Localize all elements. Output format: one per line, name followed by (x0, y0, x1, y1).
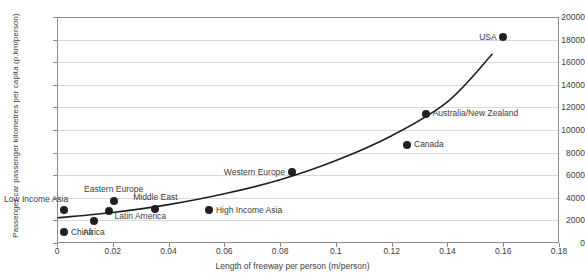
x-tick-mark (392, 243, 393, 247)
gridline (58, 130, 558, 131)
data-point-marker[interactable] (151, 205, 159, 213)
gridline (58, 153, 558, 154)
x-tick-mark (336, 243, 337, 247)
x-tick-mark (280, 243, 281, 247)
data-point-label: Middle East (133, 193, 177, 202)
data-point-label: Low Income Asia (4, 195, 68, 204)
data-point-marker[interactable] (403, 141, 411, 149)
data-point-label: Latin America (115, 212, 167, 221)
x-tick-label: 0.02 (93, 247, 133, 256)
data-point-marker[interactable] (90, 217, 98, 225)
gridline (58, 85, 558, 86)
data-point-label: Australia/New Zealand (433, 109, 519, 118)
x-tick-mark (169, 243, 170, 247)
x-tick-label: 0.08 (260, 247, 300, 256)
data-point-label: High Income Asia (216, 206, 282, 215)
x-tick-label: 0.04 (149, 247, 189, 256)
x-tick-mark (224, 243, 225, 247)
x-tick-mark (113, 243, 114, 247)
scatter-chart: Passenger car passenger kilometres per c… (0, 0, 585, 278)
gridline (58, 175, 558, 176)
x-tick-label: 0.1 (316, 247, 356, 256)
data-point-label: USA (479, 33, 496, 42)
plot-area (57, 17, 559, 243)
data-point-marker[interactable] (110, 197, 118, 205)
data-point-marker[interactable] (422, 110, 430, 118)
data-point-label: Canada (414, 140, 444, 149)
data-point-marker[interactable] (105, 207, 113, 215)
x-tick-label: 0.16 (483, 247, 523, 256)
x-axis-title: Length of freeway per person (m/person) (0, 261, 585, 271)
data-point-label: Western Europe (224, 168, 285, 177)
x-tick-label: 0.12 (372, 247, 412, 256)
x-tick-mark (559, 243, 560, 247)
x-tick-label: 0.14 (427, 247, 467, 256)
y-axis-title: Passenger car passenger kilometres per c… (11, 13, 20, 238)
x-tick-mark (57, 243, 58, 247)
x-tick-label: 0 (37, 247, 77, 256)
gridline (58, 62, 558, 63)
x-tick-label: 0.06 (204, 247, 244, 256)
x-tick-mark (447, 243, 448, 247)
data-point-label: Africa (83, 228, 105, 237)
x-tick-mark (503, 243, 504, 247)
x-tick-label: 0.18 (539, 247, 579, 256)
